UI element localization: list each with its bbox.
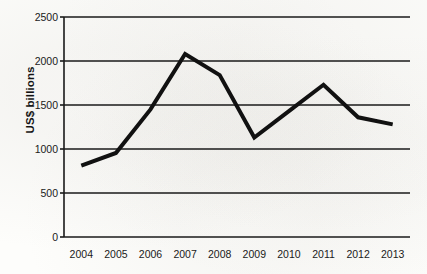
line-chart-figure: US$ billions 05001000150020002500 200420… [0, 0, 427, 274]
gridlines [64, 17, 410, 237]
plot-area [0, 0, 427, 274]
x-axis-tick-label: 2013 [373, 248, 413, 260]
